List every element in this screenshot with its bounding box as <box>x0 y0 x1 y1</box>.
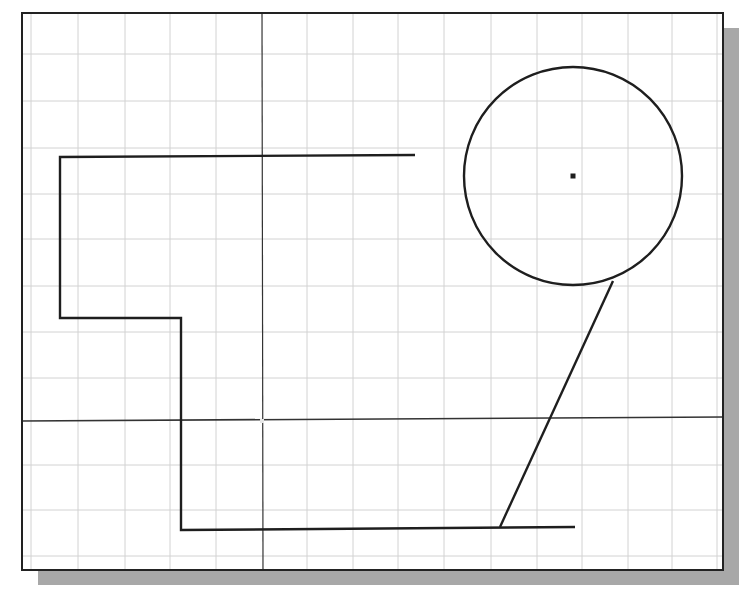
viewport-background <box>22 13 723 570</box>
cad-drawing-area[interactable] <box>0 0 744 601</box>
drawing-canvas[interactable] <box>0 0 744 601</box>
pickbox-icon <box>260 419 264 423</box>
circle-center-marker <box>571 174 576 179</box>
